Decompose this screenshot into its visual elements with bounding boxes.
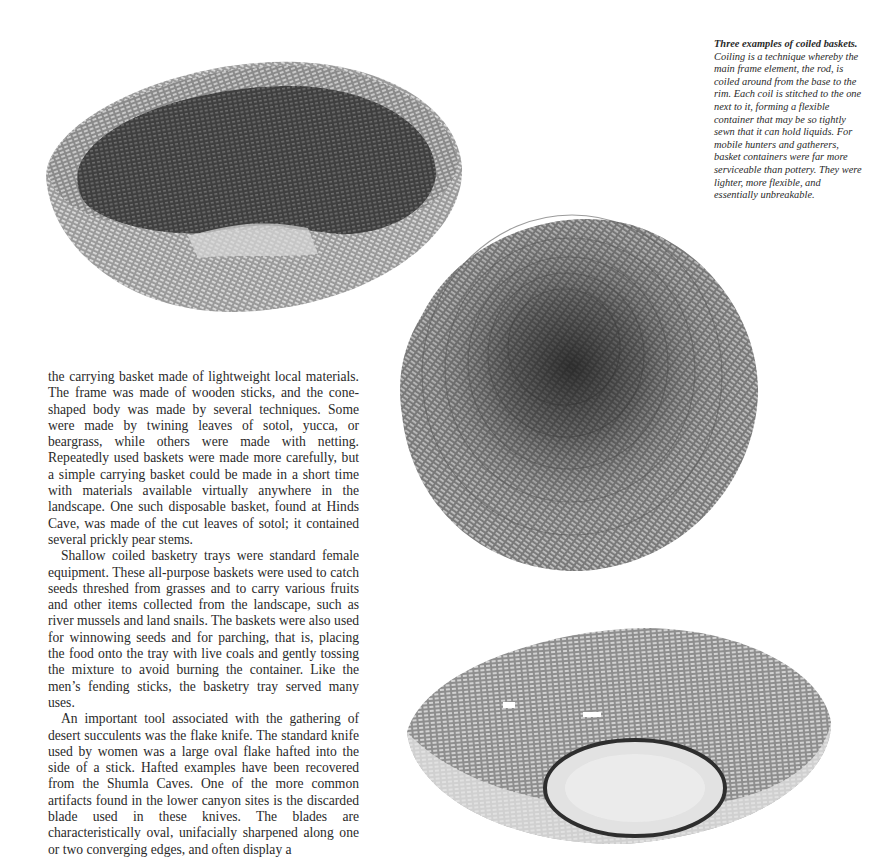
caption-lead: Three examples of coiled baskets. xyxy=(714,38,857,49)
basket-photo-top-view xyxy=(392,205,764,575)
body-text-column: the carrying basket made of lightweight … xyxy=(48,369,359,858)
body-paragraph-3: An important tool associated with the ga… xyxy=(48,711,359,858)
basket-photo-shallow-tray xyxy=(403,612,835,848)
basket-top-view-image xyxy=(392,205,764,575)
figure-caption: Three examples of coiled baskets. Coilin… xyxy=(714,38,866,202)
caption-text: Coiling is a technique whereby the main … xyxy=(714,51,862,201)
basket-shallow-tray-image xyxy=(403,612,835,848)
body-paragraph-2: Shallow coiled basketry trays were stand… xyxy=(48,548,359,711)
body-paragraph-1: the carrying basket made of lightweight … xyxy=(48,369,359,548)
